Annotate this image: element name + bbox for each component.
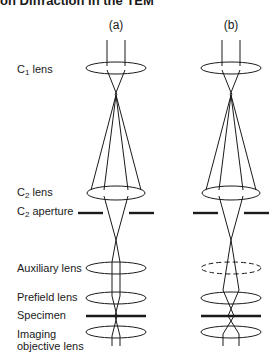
auxiliary-lens-icon (86, 262, 146, 274)
panel-b-diagram (201, 40, 261, 346)
c2-lens-icon (87, 186, 145, 200)
auxiliary-lens-off-icon (201, 262, 261, 274)
c1-lens-icon (86, 62, 146, 74)
imaging-objective-lens-icon (201, 326, 261, 338)
prefield-lens-icon (201, 292, 261, 304)
prefield-lens-icon (86, 292, 146, 304)
c1-lens-icon (201, 62, 261, 74)
panel-a-diagram (86, 40, 146, 346)
c2-lens-icon (202, 186, 260, 200)
imaging-objective-lens-icon (86, 326, 146, 338)
